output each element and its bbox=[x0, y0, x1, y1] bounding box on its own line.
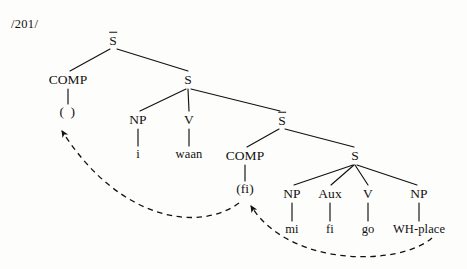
tree-node-np-wh: NP bbox=[410, 187, 427, 201]
tree-node-sbar-top: S bbox=[109, 33, 117, 48]
tree-node-label: WH-place bbox=[393, 222, 445, 236]
tree-branch bbox=[285, 129, 354, 147]
syntax-tree-figure: /201/ SCOMP( )SNPiVwaanSCOMP(fi)SNPmiAux… bbox=[0, 0, 467, 269]
tree-node-s-emb: S bbox=[351, 149, 359, 163]
tree-node-label: fi bbox=[326, 222, 334, 236]
tree-node-comp-emb: COMP bbox=[226, 149, 265, 163]
tree-branch bbox=[188, 89, 189, 111]
tree-node-label: NP bbox=[410, 186, 427, 201]
tree-node-aux-emb-t: fi bbox=[326, 223, 334, 236]
tree-node-comp-top: COMP bbox=[49, 73, 88, 87]
tree-node-sbar-emb: S bbox=[278, 113, 286, 128]
movement-arrow-move-to-matrix-comp bbox=[62, 131, 239, 217]
tree-node-label: S bbox=[184, 72, 192, 87]
tree-node-comp-top-t: ( ) bbox=[60, 105, 77, 119]
tree-node-np-emb-t: mi bbox=[285, 223, 298, 236]
tree-node-np-subj: NP bbox=[129, 113, 146, 127]
tree-node-label: (fi) bbox=[236, 181, 254, 196]
tree-branch bbox=[294, 165, 353, 185]
tree-node-label: ( ) bbox=[60, 104, 77, 119]
tree-node-label: V bbox=[184, 112, 194, 127]
tree-node-label: V bbox=[363, 186, 373, 201]
tree-node-v-main: V bbox=[184, 113, 194, 127]
tree-node-v-emb-t: go bbox=[362, 223, 375, 236]
tree-node-label: Aux bbox=[318, 186, 342, 201]
tree-node-label: NP bbox=[129, 112, 146, 127]
tree-node-label: COMP bbox=[49, 72, 88, 87]
tree-branch bbox=[117, 49, 188, 71]
tree-branch bbox=[247, 129, 279, 147]
tree-node-label: mi bbox=[285, 222, 298, 236]
tree-node-v-main-t: waan bbox=[176, 148, 203, 161]
tree-node-label: S bbox=[109, 33, 117, 48]
tree-node-np-wh-t: WH-place bbox=[393, 223, 445, 236]
tree-node-label: COMP bbox=[226, 148, 265, 163]
tree-branch bbox=[70, 49, 110, 71]
tree-node-label: waan bbox=[176, 147, 203, 161]
tree-branch bbox=[191, 89, 280, 111]
tree-node-label: i bbox=[136, 147, 140, 161]
tree-node-np-emb: NP bbox=[283, 187, 300, 201]
tree-node-label: S bbox=[278, 113, 286, 128]
tree-node-s-main: S bbox=[184, 73, 192, 87]
tree-node-label: go bbox=[362, 222, 375, 236]
tree-node-label: NP bbox=[283, 186, 300, 201]
tree-node-comp-emb-t: (fi) bbox=[236, 182, 254, 196]
tree-node-aux-emb: Aux bbox=[318, 187, 342, 201]
tree-node-np-subj-t: i bbox=[136, 148, 140, 161]
tree-node-label: S bbox=[351, 148, 359, 163]
tree-node-v-emb: V bbox=[363, 187, 373, 201]
tree-branch bbox=[140, 89, 186, 111]
